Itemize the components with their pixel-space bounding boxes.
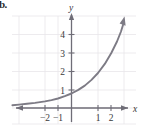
x-tick-label-minus-1: −1 <box>53 113 63 123</box>
y-tick-label-2: 2 <box>60 67 65 77</box>
exponential-graph-figure: b. <box>0 0 141 134</box>
x-tick-label-1: 1 <box>96 113 101 123</box>
x-axis-label: x <box>132 104 138 114</box>
y-axis <box>69 13 74 122</box>
y-tick-label-3: 3 <box>60 49 65 59</box>
exponential-curve <box>12 17 125 106</box>
x-tick-label-2: 2 <box>109 113 114 123</box>
y-axis-label: y <box>68 3 74 13</box>
y-tick-label-1: 1 <box>60 86 65 96</box>
x-tick-label-minus-2: −2 <box>40 113 50 123</box>
y-tick-label-4: 4 <box>60 30 65 40</box>
graph-canvas: −2 −1 1 2 1 2 3 4 y x <box>0 0 141 134</box>
